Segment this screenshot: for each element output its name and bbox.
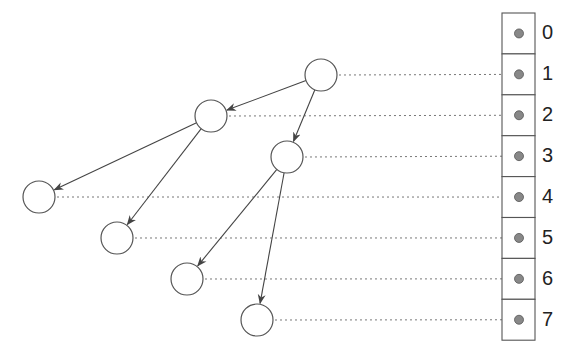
array-index-label: 6 <box>542 268 553 288</box>
pointer-dot-icon <box>515 29 524 38</box>
tree-node <box>101 222 133 254</box>
pointer-dot-icon <box>515 193 524 202</box>
tree-node <box>305 59 337 91</box>
tree-edge-arrow <box>227 81 306 110</box>
pointer-dot-icon <box>515 233 524 242</box>
tree-edge-arrow <box>198 169 277 265</box>
tree-edge-arrow <box>127 129 201 225</box>
tree-array-diagram <box>0 0 582 354</box>
array-index-label: 7 <box>542 309 553 329</box>
tree-edge-arrow <box>294 90 315 142</box>
pointer-dot-icon <box>515 274 524 283</box>
array-index-label: 4 <box>542 186 553 206</box>
tree-node <box>195 100 227 132</box>
pointer-dot-icon <box>515 70 524 79</box>
tree-node <box>241 304 273 336</box>
tree-node <box>271 141 303 173</box>
tree-node <box>171 263 203 295</box>
array-index-label: 0 <box>542 22 553 42</box>
array <box>502 13 535 340</box>
pointer-dot-icon <box>515 315 524 324</box>
dotted-link <box>339 74 519 75</box>
array-index-label: 2 <box>542 104 553 124</box>
tree-edge-arrow <box>54 123 196 190</box>
array-index-label: 1 <box>542 63 553 83</box>
tree-node <box>23 181 55 213</box>
tree-nodes <box>23 59 337 336</box>
pointer-dot-icon <box>515 152 524 161</box>
array-index-label: 5 <box>542 227 553 247</box>
pointer-dot-icon <box>515 111 524 120</box>
dotted-link <box>229 115 519 116</box>
array-index-label: 3 <box>542 145 553 165</box>
dotted-links <box>57 74 519 320</box>
dotted-link <box>305 156 519 157</box>
